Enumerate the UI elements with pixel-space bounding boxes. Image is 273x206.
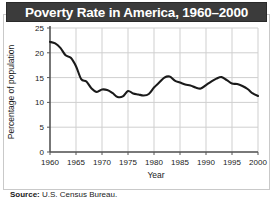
chart-gridlines — [50, 28, 258, 152]
x-axis-tick-group: 196019651970197519801985199019952000 — [41, 152, 267, 167]
x-axis-tick-label: 1990 — [197, 158, 215, 167]
y-axis-tick-label: 0 — [40, 148, 45, 157]
x-axis-tick-label: 1965 — [67, 158, 85, 167]
y-axis-title: Percentage of population — [6, 44, 16, 139]
x-axis-tick-label: 2000 — [249, 158, 267, 167]
x-axis-tick-label: 1995 — [223, 158, 241, 167]
x-axis-tick-label: 1975 — [119, 158, 137, 167]
source-label: Source: — [10, 190, 40, 199]
x-axis-tick-label: 1980 — [145, 158, 163, 167]
y-axis-tick-group: 0510152025 — [35, 24, 50, 157]
y-axis-tick-label: 5 — [40, 123, 45, 132]
poverty-rate-line-chart: 0510152025 19601965197019751980198519901… — [0, 0, 273, 206]
y-axis-tick-label: 10 — [35, 98, 44, 107]
source-text: U.S. Census Bureau. — [42, 190, 117, 199]
y-axis-tick-label: 20 — [35, 49, 44, 58]
y-axis-tick-label: 15 — [35, 74, 44, 83]
y-axis-tick-label: 25 — [35, 24, 44, 33]
x-axis-tick-label: 1985 — [171, 158, 189, 167]
source-note: Source: U.S. Census Bureau. — [10, 190, 117, 199]
x-axis-title: Year — [147, 170, 164, 180]
chart-figure: Poverty Rate in America, 1960–2000 05101… — [0, 0, 273, 206]
x-axis-tick-label: 1960 — [41, 158, 59, 167]
x-axis-tick-label: 1970 — [93, 158, 111, 167]
